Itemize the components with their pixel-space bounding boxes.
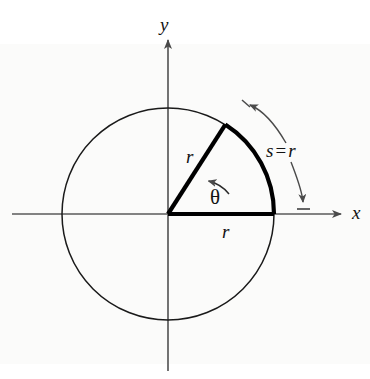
x-axis-label: x bbox=[352, 203, 360, 222]
arc-length-r: r bbox=[288, 140, 295, 161]
arc-length-label: s=r bbox=[266, 141, 296, 160]
theta-label: θ bbox=[210, 187, 220, 208]
radius-lower-label: r bbox=[222, 222, 229, 241]
geometry-figure: y x r r θ s=r bbox=[0, 0, 370, 379]
scan-tint bbox=[0, 44, 370, 364]
diagram-canvas bbox=[0, 0, 370, 379]
radius-upper-label: r bbox=[186, 147, 193, 166]
arc-length-equals: = bbox=[273, 140, 288, 161]
y-axis-label: y bbox=[160, 15, 168, 34]
